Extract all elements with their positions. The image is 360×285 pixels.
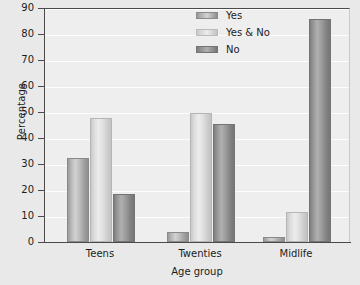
legend-swatch-icon bbox=[196, 12, 218, 19]
legend-swatch-icon bbox=[196, 46, 218, 53]
x-axis-tick-label: Teens bbox=[55, 248, 145, 259]
legend-swatch-icon bbox=[196, 29, 218, 36]
bar-twenties-yes-and-no bbox=[190, 113, 212, 242]
y-axis-tick bbox=[38, 242, 44, 243]
bar-twenties-yes bbox=[167, 232, 189, 242]
y-axis-tick bbox=[38, 112, 44, 113]
y-axis-tick bbox=[38, 34, 44, 35]
y-axis-tick bbox=[38, 138, 44, 139]
gridline bbox=[45, 87, 349, 88]
x-axis-title: Age group bbox=[44, 266, 350, 277]
bar-midlife-no bbox=[309, 19, 331, 242]
y-axis-tick-label: 40 bbox=[4, 133, 34, 143]
y-axis-tick-label: 0 bbox=[4, 237, 34, 247]
legend-item-yes: Yes bbox=[196, 7, 306, 24]
bar-teens-yes bbox=[67, 158, 89, 243]
y-axis-tick-label: 90 bbox=[4, 3, 34, 13]
y-axis-tick bbox=[38, 8, 44, 9]
y-axis-tick-label: 50 bbox=[4, 107, 34, 117]
y-axis-tick bbox=[38, 60, 44, 61]
legend-label: No bbox=[226, 44, 240, 55]
y-axis-tick-label: 30 bbox=[4, 159, 34, 169]
y-axis-tick bbox=[38, 216, 44, 217]
legend-label: Yes bbox=[226, 10, 242, 21]
y-axis-tick bbox=[38, 164, 44, 165]
gridline bbox=[45, 61, 349, 62]
legend-item-no: No bbox=[196, 41, 306, 58]
y-axis-tick bbox=[38, 86, 44, 87]
y-axis-tick-label: 60 bbox=[4, 81, 34, 91]
bar-teens-no bbox=[113, 194, 135, 242]
bar-twenties-no bbox=[213, 124, 235, 242]
y-axis-tick-label: 70 bbox=[4, 55, 34, 65]
legend-label: Yes & No bbox=[226, 27, 270, 38]
bar-midlife-yes-and-no bbox=[286, 212, 308, 242]
bar-chart: Percentage 0102030405060708090 TeensTwen… bbox=[0, 0, 360, 285]
x-axis-tick-label: Twenties bbox=[155, 248, 245, 259]
y-axis-tick-label: 10 bbox=[4, 211, 34, 221]
y-axis-tick bbox=[38, 190, 44, 191]
legend-item-yes-and-no: Yes & No bbox=[196, 24, 306, 41]
y-axis-tick-label: 20 bbox=[4, 185, 34, 195]
x-axis-line bbox=[44, 242, 351, 243]
legend: YesYes & NoNo bbox=[196, 7, 306, 58]
y-axis-tick-label: 80 bbox=[4, 29, 34, 39]
bar-teens-yes-and-no bbox=[90, 118, 112, 242]
x-axis-tick-label: Midlife bbox=[251, 248, 341, 259]
